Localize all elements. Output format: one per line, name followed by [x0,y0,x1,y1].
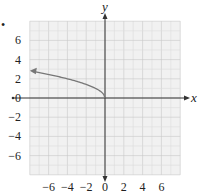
x-tick-label: 6 [158,180,164,193]
x-tick-label: 4 [140,180,146,193]
y-tick-label: −2 [8,110,21,124]
x-tick-label: −2 [80,180,93,193]
y-tick-label: −6 [8,149,21,163]
problem-marker-dot: • [1,18,5,32]
y-tick-label: −4 [8,129,21,143]
x-tick-label: 2 [121,180,127,193]
y-axis-label: y [100,0,108,14]
y-tick-label: 6 [15,33,21,47]
x-tick-label: −6 [42,180,55,193]
coordinate-plane: • −6−4−202466420−2−4−6 x y [0,0,198,193]
x-axis-label: x [190,90,197,105]
y-tick-label: 4 [15,53,21,67]
x-tick-label: 0 [102,180,108,193]
y-tick-label: 0 [15,91,21,105]
x-tick-label: −4 [61,180,74,193]
y-tick-label: 2 [15,72,21,86]
